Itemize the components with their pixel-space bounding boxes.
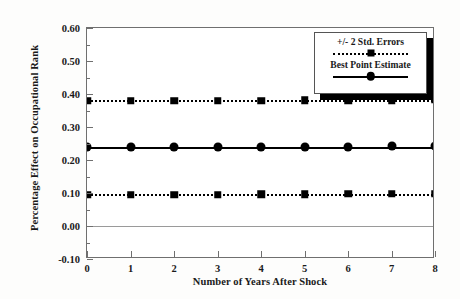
chart-legend: +/- 2 Std. ErrorsBest Point Estimate (314, 32, 427, 94)
data-point-marker (301, 191, 309, 199)
legend-entry: +/- 2 Std. Errors (319, 36, 422, 59)
x-tick-mark (261, 251, 262, 257)
legend-sample (319, 71, 422, 82)
legend-sample (319, 48, 422, 59)
data-point-marker (344, 190, 352, 198)
data-point-marker (170, 97, 178, 105)
data-point-marker (170, 143, 179, 152)
y-tick-label: 0.40 (62, 89, 80, 100)
y-tick-mark (87, 61, 93, 62)
data-point-marker (257, 143, 266, 152)
data-point-marker (126, 143, 135, 152)
y-axis-title: Percentage Effect on Occupational Rank (26, 18, 44, 258)
data-point-marker (170, 191, 178, 199)
y-minor-tick-mark (87, 111, 90, 112)
x-axis-title: Number of Years After Shock (86, 276, 434, 287)
x-tick-label: 1 (128, 263, 133, 274)
y-tick-label: -0.10 (58, 254, 80, 265)
y-minor-tick-mark (87, 243, 90, 244)
data-point-marker (213, 143, 222, 152)
y-minor-tick-mark (87, 78, 90, 79)
data-point-marker (257, 191, 265, 199)
x-tick-label: 8 (432, 263, 437, 274)
x-tick-mark (435, 251, 436, 257)
x-tick-label: 0 (84, 263, 89, 274)
chart-figure: Percentage Effect on Occupational Rank 0… (0, 0, 460, 299)
data-point-marker (127, 97, 135, 105)
y-minor-tick-mark (87, 45, 90, 46)
x-tick-mark (174, 251, 175, 257)
data-point-marker (301, 97, 309, 105)
legend-label: +/- 2 Std. Errors (319, 36, 422, 48)
data-point-marker (300, 142, 309, 151)
x-tick-label: 2 (171, 263, 176, 274)
y-minor-tick-mark (87, 210, 90, 211)
y-tick-label: 0.50 (62, 56, 80, 67)
data-point-marker (214, 191, 222, 199)
legend-sample-marker (366, 72, 375, 81)
y-tick-mark (87, 259, 93, 260)
y-tick-label: 0.30 (62, 122, 80, 133)
data-point-marker (127, 191, 135, 199)
legend-entry: Best Point Estimate (319, 59, 422, 82)
data-point-marker (214, 97, 222, 105)
y-tick-mark (87, 226, 93, 227)
data-point-marker (388, 190, 396, 198)
x-tick-label: 7 (389, 263, 394, 274)
y-tick-mark (87, 94, 93, 95)
x-tick-mark (305, 251, 306, 257)
x-tick-mark (348, 251, 349, 257)
x-tick-mark (392, 251, 393, 257)
y-tick-label: 0.10 (62, 188, 80, 199)
data-point-marker (387, 142, 396, 151)
y-tick-mark (87, 193, 93, 194)
x-tick-mark (87, 251, 88, 257)
legend-label: Best Point Estimate (319, 59, 422, 71)
data-point-marker (431, 142, 434, 151)
y-tick-mark (87, 127, 93, 128)
y-tick-label: 0.00 (62, 221, 80, 232)
y-minor-tick-mark (87, 177, 90, 178)
x-tick-label: 6 (345, 263, 350, 274)
y-tick-mark (87, 28, 93, 29)
x-tick-label: 4 (258, 263, 263, 274)
y-minor-tick-mark (87, 144, 90, 145)
legend-sample-marker (367, 50, 374, 57)
data-point-marker (344, 142, 353, 151)
x-tick-mark (218, 251, 219, 257)
x-tick-label: 5 (302, 263, 307, 274)
y-tick-mark (87, 160, 93, 161)
y-tick-label: 0.20 (62, 155, 80, 166)
x-tick-mark (131, 251, 132, 257)
data-point-marker (257, 97, 265, 105)
data-point-marker (431, 190, 433, 198)
data-point-marker (87, 97, 91, 105)
zero-reference-line (87, 226, 433, 227)
x-tick-label: 3 (215, 263, 220, 274)
y-tick-label: 0.60 (62, 23, 80, 34)
